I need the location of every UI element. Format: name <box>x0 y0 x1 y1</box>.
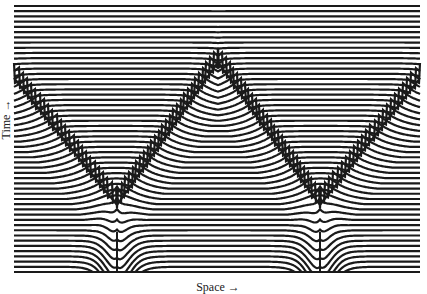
worldline <box>14 109 420 130</box>
y-axis-label: Time → <box>0 100 14 140</box>
worldlines <box>14 6 420 272</box>
wave-lines-plot <box>0 0 427 294</box>
worldline <box>14 219 420 223</box>
worldline <box>14 78 420 99</box>
worldline <box>14 83 420 104</box>
worldline <box>14 43 420 44</box>
worldline <box>14 235 420 250</box>
worldline <box>14 256 420 272</box>
x-axis-label: Space → <box>0 280 427 294</box>
worldline <box>14 172 420 193</box>
worldline <box>14 114 420 135</box>
space-time-diagram: Time → Space → <box>0 0 427 294</box>
